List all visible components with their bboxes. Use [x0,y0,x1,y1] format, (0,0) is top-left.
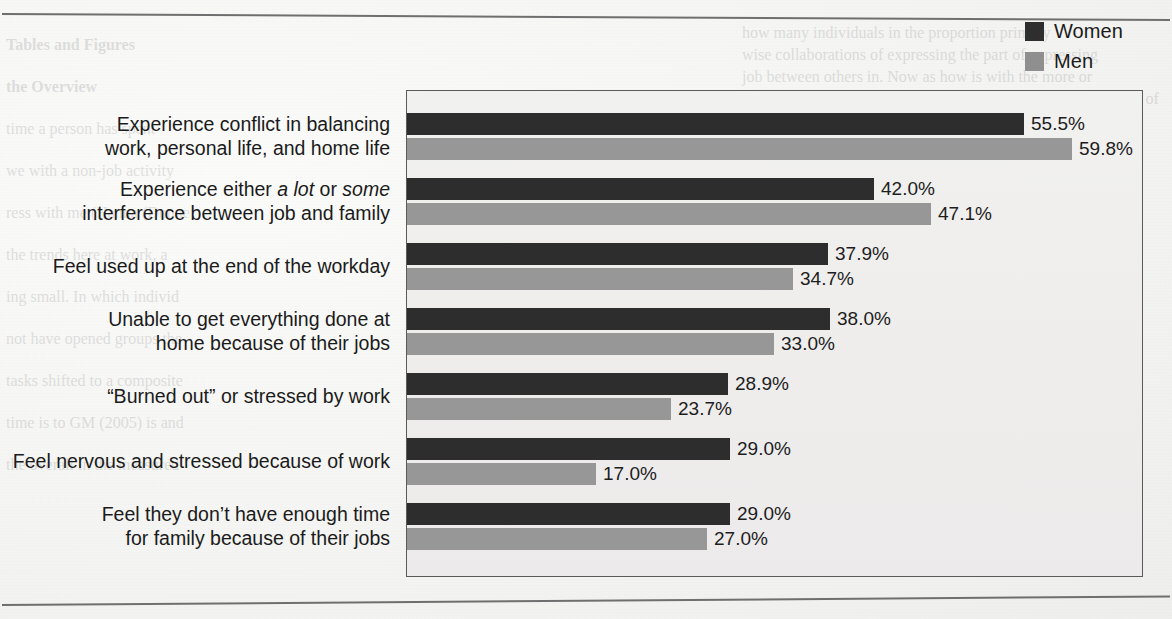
category-label: Unable to get everything done athome bec… [0,307,390,355]
bar-men [407,268,793,290]
legend-swatch-women-icon [1025,22,1044,41]
chart-plot-area: 55.5%59.8%42.0%47.1%37.9%34.7%38.0%33.0%… [407,91,1142,576]
bar-row: 47.1% [407,203,1142,225]
bar-men [407,333,774,355]
bar-row: 59.8% [407,138,1142,160]
bar-row: 23.7% [407,398,1142,420]
legend-swatch-men-icon [1025,52,1044,71]
bar-value-label: 29.0% [730,438,791,460]
ghost-text-line: Tables and Figures [6,34,135,55]
bar-row: 38.0% [407,308,1142,330]
page-rule-top [2,13,1170,21]
bar-men [407,463,596,485]
scanned-page: Tables and Figuresthe Overviewtime a per… [0,0,1172,619]
category-axis-labels: Experience conflict in balancingwork, pe… [0,90,398,577]
legend-label-men: Men [1054,50,1093,73]
bar-value-label: 33.0% [774,333,835,355]
bar-value-label: 17.0% [596,463,657,485]
bar-value-label: 27.0% [707,528,768,550]
bar-row: 34.7% [407,268,1142,290]
bar-value-label: 59.8% [1072,138,1133,160]
bar-row: 27.0% [407,528,1142,550]
ghost-text-line: how many individuals in the proportion p… [742,22,1050,44]
bar-value-label: 55.5% [1024,113,1085,135]
bar-value-label: 37.9% [828,243,889,265]
bar-group: 42.0%47.1% [407,178,1142,225]
bar-value-label: 29.0% [730,503,791,525]
category-label: Experience either a lot or someinterfere… [0,177,390,225]
bar-value-label: 42.0% [874,178,935,200]
bar-value-label: 23.7% [671,398,732,420]
bar-group: 38.0%33.0% [407,308,1142,355]
bar-row: 42.0% [407,178,1142,200]
bar-women [407,373,728,395]
chart-plot-frame: 55.5%59.8%42.0%47.1%37.9%34.7%38.0%33.0%… [406,90,1143,577]
bar-value-label: 34.7% [793,268,854,290]
bar-women [407,243,828,265]
bar-group: 28.9%23.7% [407,373,1142,420]
bar-row: 37.9% [407,243,1142,265]
bar-men [407,203,931,225]
bar-group: 37.9%34.7% [407,243,1142,290]
bar-women [407,178,874,200]
bar-value-label: 38.0% [830,308,891,330]
bar-men [407,398,671,420]
bar-row: 33.0% [407,333,1142,355]
bar-men [407,138,1072,160]
bar-row: 17.0% [407,463,1142,485]
bar-women [407,308,830,330]
bar-row: 55.5% [407,113,1142,135]
bar-group: 29.0%17.0% [407,438,1142,485]
bar-women [407,113,1024,135]
bar-value-label: 47.1% [931,203,992,225]
legend-label-women: Women [1054,20,1123,43]
category-label: Feel they don’t have enough timefor fami… [0,502,390,550]
bar-value-label: 28.9% [728,373,789,395]
page-rule-bottom [2,595,1170,605]
bar-women [407,438,730,460]
bar-row: 28.9% [407,373,1142,395]
chart-legend: Women Men [1025,16,1165,76]
bar-men [407,528,707,550]
category-label: Feel nervous and stressed because of wor… [0,449,390,473]
category-label: Experience conflict in balancingwork, pe… [0,112,390,160]
bar-row: 29.0% [407,503,1142,525]
category-label: “Burned out” or stressed by work [0,384,390,408]
bar-group: 55.5%59.8% [407,113,1142,160]
category-label: Feel used up at the end of the workday [0,254,390,278]
legend-item-men: Men [1025,46,1165,76]
bar-row: 29.0% [407,438,1142,460]
bar-women [407,503,730,525]
legend-item-women: Women [1025,16,1165,46]
bar-group: 29.0%27.0% [407,503,1142,550]
